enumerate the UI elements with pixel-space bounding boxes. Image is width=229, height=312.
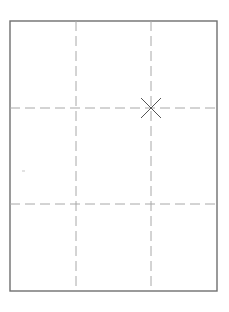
faint-speck (22, 170, 25, 172)
outer-frame (10, 21, 217, 291)
grid-diagram (0, 0, 229, 312)
dashed-grid (10, 21, 217, 291)
